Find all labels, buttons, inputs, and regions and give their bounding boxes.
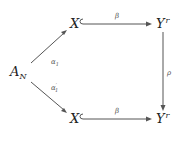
arrow-beta-top [80, 19, 152, 27]
label-alpha1-prime: α′1 [51, 82, 58, 93]
commutative-diagram: AN X Yr X Yr α1 α′1 β β ρ [0, 0, 182, 144]
arrow-rho [161, 32, 166, 111]
hook-icon [80, 114, 83, 119]
node-x-bottom: X [69, 111, 80, 126]
arrow-alpha1-prime [31, 82, 67, 113]
arrowhead-beta-top [146, 22, 152, 27]
label-alpha1: α1 [51, 58, 59, 67]
arrow-beta-bottom [80, 114, 152, 122]
node-x-top: X [69, 16, 80, 31]
hook-icon [80, 19, 83, 24]
node-a-n: AN [9, 64, 27, 81]
label-rho: ρ [166, 69, 172, 77]
arrowhead-beta-bottom [146, 117, 152, 122]
arrow-alpha1 [31, 30, 67, 63]
label-beta-top: β [114, 12, 119, 20]
node-y-top: Yr [156, 16, 171, 31]
node-y-bottom: Yr [156, 111, 171, 126]
label-beta-bottom: β [114, 107, 119, 115]
